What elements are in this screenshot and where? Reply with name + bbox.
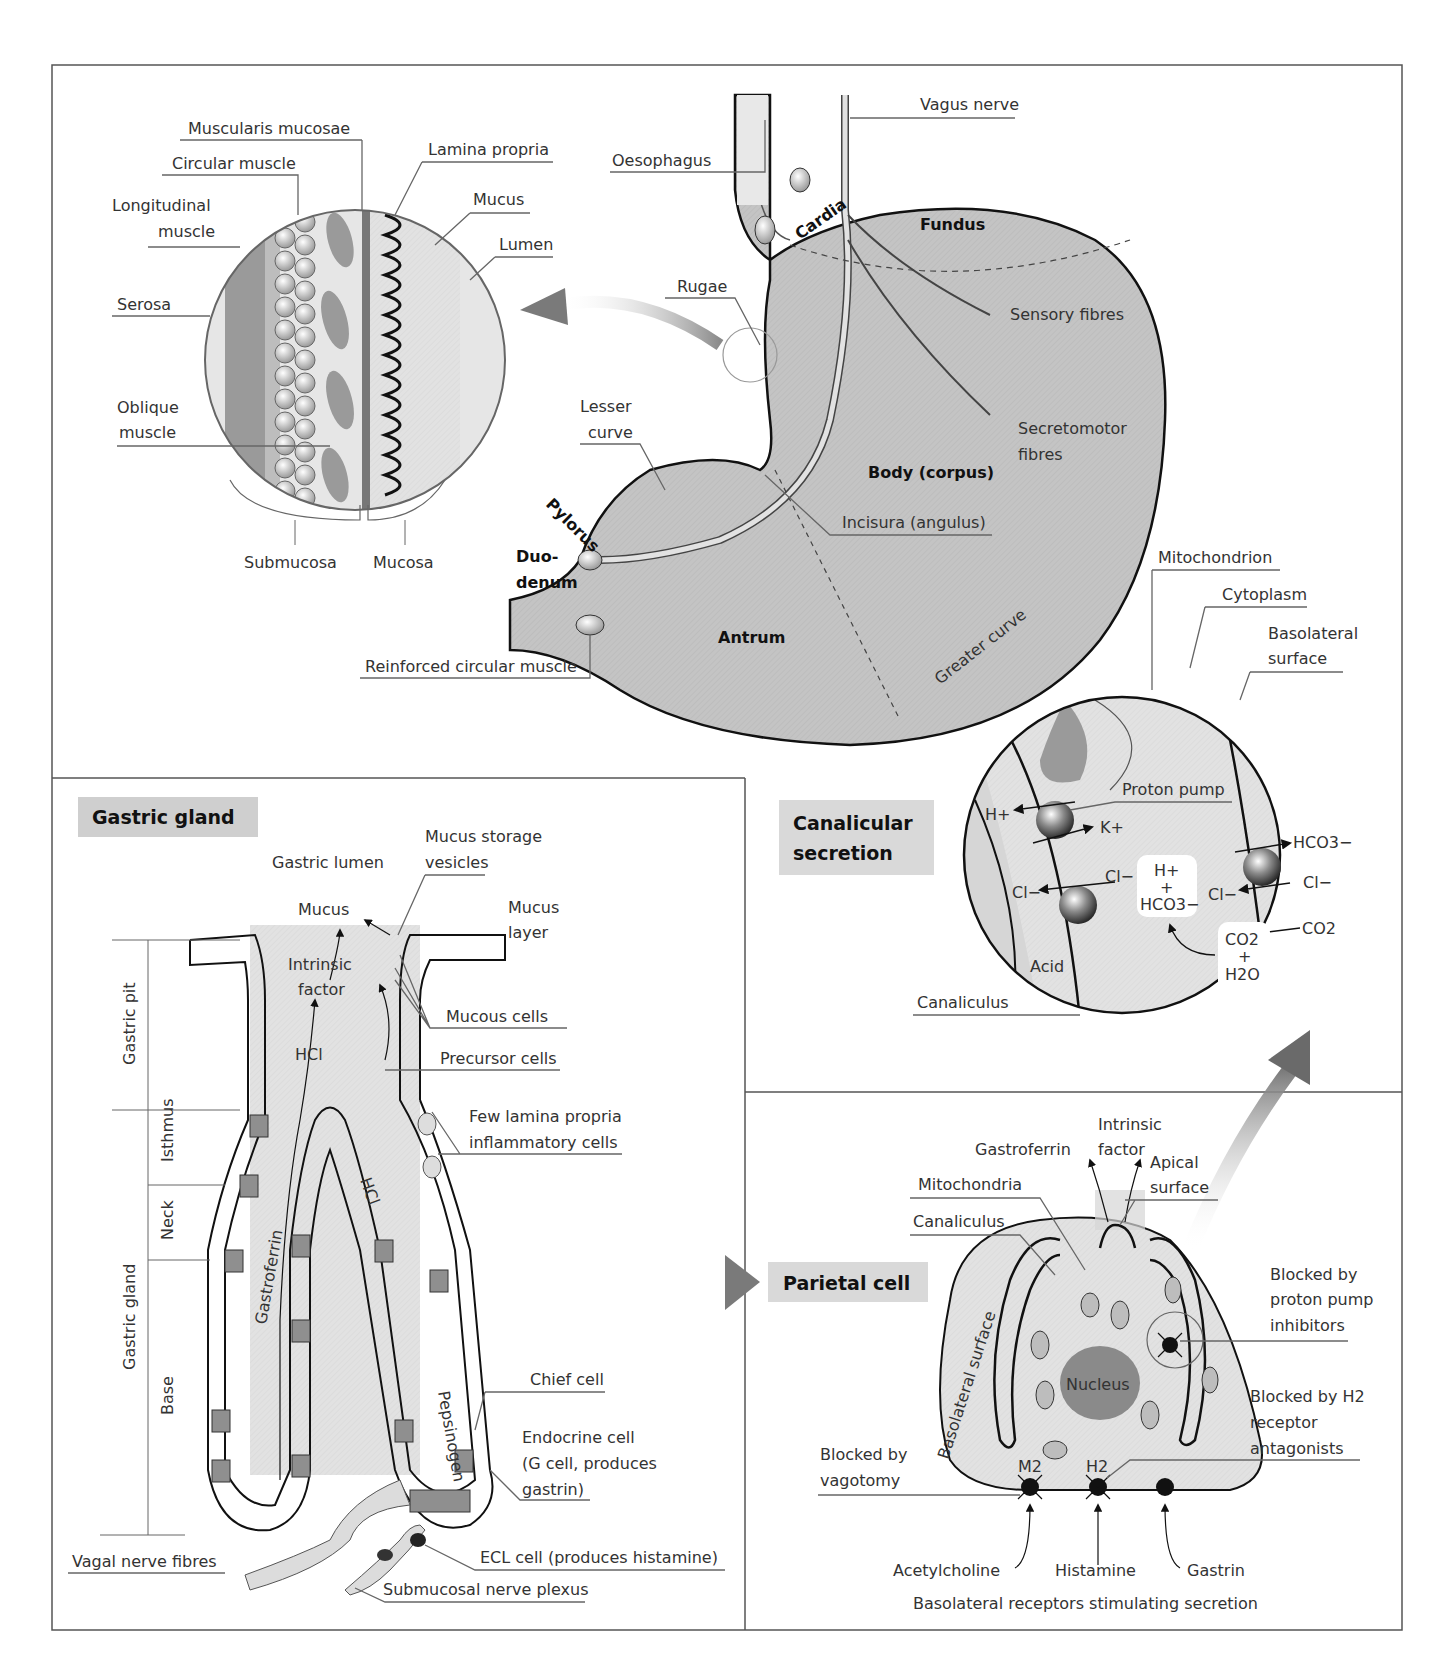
label-vagus-nerve: Vagus nerve xyxy=(920,95,1019,114)
label-k-plus: K+ xyxy=(1100,818,1124,837)
label-inflammatory-1: Few lamina propria xyxy=(469,1107,622,1126)
label-intrinsic: Intrinsic xyxy=(288,955,352,974)
label-mucus-storage-vesicles: vesicles xyxy=(425,853,489,872)
label-endocrine-1: Endocrine cell xyxy=(522,1428,635,1447)
label-cl-in: Cl− xyxy=(1105,867,1134,886)
label-h2-blocked-2: receptor xyxy=(1250,1413,1318,1432)
label-submucosa: Submucosa xyxy=(244,553,337,572)
label-nucleus: Nucleus xyxy=(1066,1375,1130,1394)
label-muscularis-mucosae: Muscularis mucosae xyxy=(188,119,350,138)
label-canaliculus-magnified: Canaliculus xyxy=(917,993,1009,1012)
label-ppi-1: Blocked by xyxy=(1270,1265,1357,1284)
label-acid: Acid xyxy=(1030,957,1064,976)
label-ecl-cell: ECL cell (produces histamine) xyxy=(480,1548,718,1567)
label-reinforced-circular-muscle: Reinforced circular muscle xyxy=(365,657,577,676)
label-vagotomy-2: vagotomy xyxy=(820,1471,900,1490)
label-h2-blocked-1: Blocked by H2 xyxy=(1250,1387,1365,1406)
label-basolateral-surface: surface xyxy=(1268,649,1327,668)
label-proton-pump: Proton pump xyxy=(1122,780,1225,799)
label-histamine: Histamine xyxy=(1055,1561,1136,1580)
label-mucosa: Mucosa xyxy=(373,553,434,572)
canalicular-title-1: Canalicular xyxy=(793,812,913,834)
label-endocrine-3: gastrin) xyxy=(522,1480,584,1499)
label-antrum: Antrum xyxy=(718,628,785,647)
label-cl-out: Cl− xyxy=(1012,883,1041,902)
label-longitudinal: Longitudinal xyxy=(112,196,211,215)
label-lamina-propria: Lamina propria xyxy=(428,140,549,159)
label-basolateral: Basolateral xyxy=(1268,624,1358,643)
label-canaliculus-cell: Canaliculus xyxy=(913,1212,1005,1231)
label-gastroferrin-cell: Gastroferrin xyxy=(975,1140,1071,1159)
label-duodenum-1: Duo- xyxy=(516,547,558,566)
gastric-gland-title: Gastric gland xyxy=(92,806,235,828)
label-mucus-layer-1: Mucus xyxy=(508,898,559,917)
zone-isthmus: Isthmus xyxy=(158,1098,177,1162)
label-cl-right: Cl− xyxy=(1303,873,1332,892)
label-serosa: Serosa xyxy=(117,295,171,314)
label-rugae: Rugae xyxy=(677,277,727,296)
label-secretomotor-fibres: fibres xyxy=(1018,445,1063,464)
label-mitochondrion: Mitochondrion xyxy=(1158,548,1272,567)
caption-basolateral-receptors: Basolateral receptors stimulating secret… xyxy=(913,1594,1258,1613)
label-inflammatory-2: inflammatory cells xyxy=(469,1133,618,1152)
label-h-plus: H+ xyxy=(985,805,1010,824)
label-oblique-muscle: muscle xyxy=(119,423,176,442)
label-submucosal-plexus: Submucosal nerve plexus xyxy=(383,1580,589,1599)
label-m2: M2 xyxy=(1018,1457,1042,1476)
label-sensory-fibres: Sensory fibres xyxy=(1010,305,1124,324)
label-apical: Apical xyxy=(1150,1153,1199,1172)
label-apical-surface: surface xyxy=(1150,1178,1209,1197)
zone-gastric-gland: Gastric gland xyxy=(120,1264,139,1370)
label-h2-blocked-3: antagonists xyxy=(1250,1439,1344,1458)
label-lesser-curve: curve xyxy=(588,423,633,442)
box-hco3: HCO3− xyxy=(1140,895,1199,914)
label-intrinsic-factor: factor xyxy=(298,980,345,999)
label-lesser: Lesser xyxy=(580,397,632,416)
wall-section-magnified xyxy=(200,200,520,545)
label-hcl-1: HCl xyxy=(295,1045,323,1064)
zone-neck: Neck xyxy=(158,1199,177,1240)
label-longitudinal-muscle: muscle xyxy=(158,222,215,241)
label-oblique: Oblique xyxy=(117,398,179,417)
label-mucus-layer-2: layer xyxy=(508,923,549,942)
label-hco3-out: HCO3− xyxy=(1293,833,1352,852)
label-incisura: Incisura (angulus) xyxy=(842,513,986,532)
box2-h2o: H2O xyxy=(1225,965,1260,984)
label-duodenum-2: denum xyxy=(516,573,578,592)
label-pepsinogen: Pepsinogen xyxy=(434,1389,469,1483)
label-intrinsic-factor-cell: factor xyxy=(1098,1140,1145,1159)
box2-plus: + xyxy=(1238,947,1251,966)
label-secretomotor: Secretomotor xyxy=(1018,419,1127,438)
label-cl-mid: Cl− xyxy=(1208,885,1237,904)
label-ppi-2: proton pump xyxy=(1270,1290,1374,1309)
label-mucus-gland: Mucus xyxy=(298,900,349,919)
label-co2-in: CO2 xyxy=(1302,919,1336,938)
label-cytoplasm: Cytoplasm xyxy=(1222,585,1307,604)
label-mucus-wall: Mucus xyxy=(473,190,524,209)
label-h2: H2 xyxy=(1086,1457,1108,1476)
label-chief-cell: Chief cell xyxy=(530,1370,604,1389)
parietal-cell-title: Parietal cell xyxy=(783,1272,910,1294)
label-fundus: Fundus xyxy=(920,215,985,234)
label-acetylcholine: Acetylcholine xyxy=(893,1561,1000,1580)
label-mucus-storage: Mucus storage xyxy=(425,827,542,846)
label-mucous-cells: Mucous cells xyxy=(446,1007,548,1026)
zone-base: Base xyxy=(158,1376,177,1415)
label-precursor-cells: Precursor cells xyxy=(440,1049,557,1068)
label-gastrin: Gastrin xyxy=(1187,1561,1245,1580)
canalicular-title-2: secretion xyxy=(793,842,893,864)
label-gastric-lumen: Gastric lumen xyxy=(272,853,384,872)
label-circular-muscle: Circular muscle xyxy=(172,154,296,173)
label-ppi-3: inhibitors xyxy=(1270,1316,1345,1335)
label-intrinsic-cell: Intrinsic xyxy=(1098,1115,1162,1134)
label-lumen: Lumen xyxy=(499,235,553,254)
label-oesophagus: Oesophagus xyxy=(612,151,711,170)
label-mitochondria: Mitochondria xyxy=(918,1175,1022,1194)
zone-gastric-pit: Gastric pit xyxy=(120,982,139,1065)
label-body-corpus: Body (corpus) xyxy=(868,463,994,482)
label-vagotomy-1: Blocked by xyxy=(820,1445,907,1464)
label-endocrine-2: (G cell, produces xyxy=(522,1454,657,1473)
gastric-physiology-figure: Vagus nerve Oesophagus Cardia Fundus Rug… xyxy=(0,0,1437,1678)
label-vagal-nerve-fibres: Vagal nerve fibres xyxy=(72,1552,217,1571)
